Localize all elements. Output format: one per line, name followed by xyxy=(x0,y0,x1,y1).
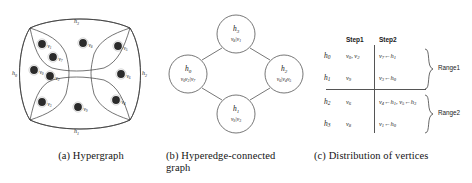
svg-text:v1: v1 xyxy=(48,43,52,50)
row-h2-step2: v4←h1, v5←h3 xyxy=(379,94,416,112)
row-h1-step1: v9 xyxy=(346,70,351,88)
row-label-h3: h3 xyxy=(324,116,330,133)
row-h0-step2: v7←h1 xyxy=(379,48,396,66)
edge-h2-h1 xyxy=(250,88,270,100)
svg-text:v8: v8 xyxy=(89,42,93,49)
edge-h0-h1 xyxy=(202,88,222,100)
vertex-v9 xyxy=(74,103,82,111)
vertex-v5 xyxy=(114,42,122,50)
graph-node-h2: h2 v6|v4v5 xyxy=(265,55,303,93)
row-label-h0: h0 xyxy=(324,48,330,65)
brace-range2 xyxy=(424,94,435,134)
graph-node-h1: h1 v9|v3 xyxy=(217,95,255,133)
vertex-v0 xyxy=(30,66,38,74)
row-h2-step1: v6 xyxy=(346,94,351,112)
row-label-h2: h2 xyxy=(324,94,330,111)
row-h3-step2: v1←h0 xyxy=(379,116,396,134)
brace-range1 xyxy=(424,48,435,90)
table-horizontal-rule xyxy=(326,89,426,90)
svg-text:v6|v4v5: v6|v4v5 xyxy=(277,76,292,83)
column-header-step1: Step1 xyxy=(346,36,364,43)
edge-h3-h0 xyxy=(202,48,222,60)
caption-panel-a: (a) Hypergraph xyxy=(36,150,146,162)
table-row: h0 v0, v2 v7←h1 xyxy=(322,48,422,64)
svg-text:v3: v3 xyxy=(48,101,52,108)
vertex-v4 xyxy=(112,96,120,104)
hyperedge-connected-graph: h3 v8|v1 h0 v0v2|v7 h2 v6|v4v5 h1 v9|v3 xyxy=(166,10,306,138)
range-label-2: Range2 xyxy=(438,109,460,116)
row-h3-step1: v8 xyxy=(346,116,351,134)
svg-text:v9: v9 xyxy=(84,106,88,113)
hyperedge-label-h2: h2 xyxy=(142,70,147,78)
panel-distribution-table: Step1 Step2 h0 v0, v2 v7←h1 h1 v9 v3←h0 … xyxy=(322,36,468,140)
vertex-v1 xyxy=(38,40,46,48)
hyperedge-label-h0: h0 xyxy=(12,70,17,78)
vertex-v7 xyxy=(49,53,57,61)
svg-text:v0: v0 xyxy=(40,69,44,76)
row-h1-step2: v3←h0 xyxy=(379,70,396,88)
vertex-v6 xyxy=(117,70,125,78)
svg-text:v2: v2 xyxy=(56,75,60,82)
caption-panel-c: (c) Distribution of vertices xyxy=(314,150,470,162)
svg-text:v4: v4 xyxy=(122,99,126,106)
distribution-table: Step1 Step2 h0 v0, v2 v7←h1 h1 v9 v3←h0 … xyxy=(322,36,468,140)
table-row: h2 v6 v4←h1, v5←h3 xyxy=(322,94,422,110)
table-row: h1 v9 v3←h0 xyxy=(322,70,422,86)
graph-node-h3: h3 v8|v1 xyxy=(217,15,255,53)
svg-text:v6: v6 xyxy=(127,73,131,80)
svg-text:v7: v7 xyxy=(59,56,63,63)
figure-container: h0 h1 h2 h3 v1 v7 v0 v2 v8 v5 v6 xyxy=(0,0,472,183)
column-header-step2: Step2 xyxy=(379,36,397,43)
range-label-1: Range1 xyxy=(438,64,460,71)
edge-h3-h2 xyxy=(250,48,270,60)
row-h0-step1: v0, v2 xyxy=(346,48,359,66)
table-row: h3 v8 v1←h0 xyxy=(322,116,422,132)
hypergraph-diagram: h0 h1 h2 h3 v1 v7 v0 v2 v8 v5 v6 xyxy=(8,14,160,136)
graph-node-h0: h0 v0v2|v7 xyxy=(169,55,207,93)
row-label-h1: h1 xyxy=(324,70,330,87)
svg-text:v5: v5 xyxy=(124,45,128,52)
vertex-group: v1 v7 v0 v2 v8 v5 v6 v3 v9 v4 xyxy=(29,38,131,113)
caption-panel-b: (b) Hyperedge-connected graph xyxy=(166,150,298,174)
panel-hypergraph: h0 h1 h2 h3 v1 v7 v0 v2 v8 v5 v6 xyxy=(8,14,160,136)
vertex-v8 xyxy=(79,39,87,47)
vertex-v2 xyxy=(46,72,54,80)
vertex-v3 xyxy=(38,98,46,106)
panel-hyperedge-graph: h3 v8|v1 h0 v0v2|v7 h2 v6|v4v5 h1 v9|v3 xyxy=(166,10,306,138)
